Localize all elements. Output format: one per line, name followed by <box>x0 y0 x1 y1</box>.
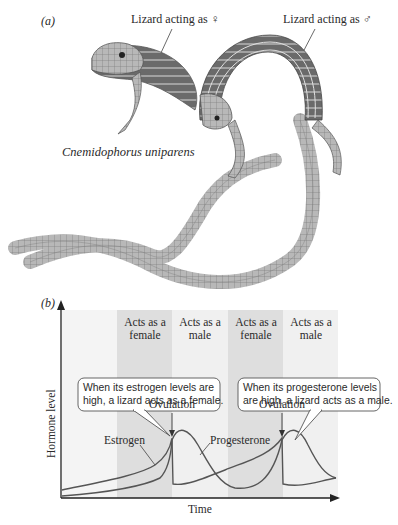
lizard-male-head <box>200 94 232 129</box>
lizard-female-eye <box>119 52 125 58</box>
progesterone-leader <box>200 443 210 455</box>
y-axis-label: Hormone level <box>45 389 57 458</box>
x-axis-label: Time <box>188 503 212 515</box>
lizard-male-eye <box>215 116 220 121</box>
progesterone-label: Progesterone <box>210 434 270 446</box>
band-label-female-1: Acts as a female <box>117 316 173 342</box>
y-axis-arrow <box>57 300 65 310</box>
estrogen-leader <box>140 445 155 465</box>
panel-b-label: (b) <box>41 296 55 311</box>
x-axis-arrow <box>330 494 340 502</box>
band-label-male-1: Acts as a male <box>172 316 228 342</box>
tail-female <box>30 160 275 262</box>
ovulation-label-2: Ovulation <box>259 398 305 410</box>
band-label-male-2: Acts as a male <box>283 316 339 342</box>
lizard-female-head <box>92 43 143 74</box>
lizard-illustration <box>0 0 398 300</box>
lizard-female-leg <box>118 72 141 134</box>
leader-line-female <box>160 29 172 55</box>
band-label-female-2: Acts as a female <box>228 316 284 342</box>
estrogen-label: Estrogen <box>104 434 145 446</box>
ovulation-label-1: Ovulation <box>149 398 195 410</box>
